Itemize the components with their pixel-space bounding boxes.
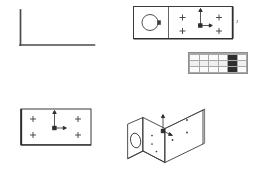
table-cell[interactable] (237, 67, 247, 73)
profile-sketch-svg (0, 0, 128, 95)
hole-table-grid (189, 53, 247, 73)
front-view-bore (142, 15, 161, 31)
hole-dot (151, 143, 153, 145)
hole-mark (30, 116, 36, 122)
view-isometric[interactable] (125, 95, 255, 189)
hole-mark (216, 15, 222, 21)
hole-dot (186, 119, 188, 121)
iso-view-svg (125, 95, 255, 189)
hole-mark (180, 28, 186, 34)
plan-view-svg (0, 95, 128, 189)
profile-sketch-geometry (20, 10, 95, 45)
iso-origin-axis (161, 115, 172, 136)
view-plan[interactable]: L J (0, 95, 128, 189)
hole-mark (30, 132, 36, 138)
drawing-sheet: J (0, 0, 255, 189)
hole-table[interactable] (188, 52, 248, 74)
iso-bore (129, 132, 142, 149)
iso-bottom-edge (128, 151, 165, 163)
front-view-bore-tab (158, 21, 161, 25)
hole-mark (216, 28, 222, 34)
iso-front-hole-pattern (151, 135, 157, 153)
iso-top-edge (165, 109, 205, 128)
table-cell[interactable] (199, 67, 209, 73)
table-cell[interactable] (190, 67, 200, 73)
view-front[interactable]: J (128, 0, 255, 50)
hole-table-body (190, 55, 247, 73)
front-view-edge-label: J (236, 19, 238, 24)
iso-right-hole-pattern (172, 119, 188, 141)
iso-front-face (143, 118, 165, 163)
hole-dot (172, 139, 174, 141)
view-profile-sketch[interactable] (0, 0, 128, 95)
table-row[interactable] (190, 67, 247, 73)
front-view-origin-axis (199, 9, 213, 28)
hole-mark (75, 132, 81, 138)
hole-mark (75, 116, 81, 122)
hole-dot (151, 135, 153, 137)
front-view-svg (128, 0, 255, 50)
front-view-outline (134, 7, 233, 39)
table-cell-highlighted[interactable] (228, 67, 238, 73)
table-cell[interactable] (218, 67, 228, 73)
table-cell[interactable] (209, 67, 219, 73)
hole-dot (186, 132, 188, 134)
iso-right-face (165, 110, 203, 163)
hole-mark (180, 15, 186, 21)
plan-view-origin-axis (53, 111, 67, 130)
hole-dot (156, 151, 158, 153)
